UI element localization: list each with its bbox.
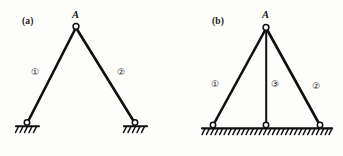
panel-b-member-2-label: ② (312, 81, 320, 91)
panel-a-left-pin-joint (24, 120, 29, 125)
panel-a-member-2-label: ② (117, 67, 125, 77)
panel-b-apex-pin-joint (263, 25, 269, 31)
panel-b-member-1-label: ① (211, 79, 219, 89)
panel-b-apex-label: A (262, 9, 269, 20)
panel-a-left-support (16, 120, 40, 133)
panel-b-ground-hatching (202, 129, 332, 135)
panel-b-middle-pin-joint (263, 122, 268, 127)
panel-a-member-1-label: ① (31, 67, 39, 77)
panel-b-left-pin-joint (210, 122, 215, 127)
panel-b-right-pin-joint (317, 122, 322, 127)
panel-a-member-2 (77, 29, 135, 123)
panel-a-caption: (a) (22, 16, 34, 26)
panel-b-group (202, 25, 332, 135)
panel-a-left-ground-hatching (16, 127, 37, 133)
figure-root: (a) A ① ② (b) A ① ③ ② (0, 0, 343, 156)
panel-a-group (16, 24, 148, 133)
panel-b-member-3-label: ③ (271, 79, 279, 89)
panel-b-member-1 (214, 30, 266, 125)
panel-a-right-pin-joint (132, 120, 137, 125)
panel-a-right-ground-hatching (124, 127, 145, 133)
panel-b-member-2 (267, 30, 320, 125)
panel-a-apex-label: A (72, 9, 79, 20)
truss-diagram-canvas (0, 0, 343, 156)
panel-a-right-support (124, 120, 148, 133)
panel-a-apex-pin-joint (73, 24, 79, 30)
panel-b-caption: (b) (212, 16, 224, 26)
